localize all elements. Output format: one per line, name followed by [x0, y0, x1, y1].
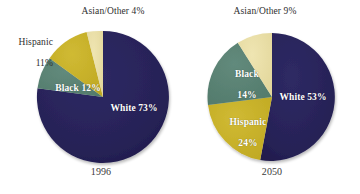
label-1996-asian-other: Asian/Other 4%	[82, 6, 145, 16]
label-2050-black-line2: 14%	[237, 90, 256, 100]
label-1996-hispanic-line1: Hispanic	[18, 37, 53, 47]
figure-canvas: Hispanic 11% Asian/Other 4% Black 12% Wh…	[0, 0, 360, 194]
year-label-1996: 1996	[91, 167, 111, 178]
year-label-2050: 2050	[262, 167, 282, 178]
label-2050-hispanic-line2: 24%	[238, 138, 257, 148]
label-2050-hispanic: Hispanic 24%	[220, 107, 267, 158]
label-1996-black: Black 12%	[55, 83, 101, 93]
label-2050-white: White 53%	[279, 92, 326, 102]
label-1996-hispanic-line2: 11%	[36, 58, 53, 68]
label-2050-black: Black 14%	[225, 59, 259, 110]
label-2050-hispanic-line1: Hispanic	[230, 117, 267, 127]
label-1996-white: White 73%	[110, 103, 157, 113]
label-2050-black-line1: Black	[235, 69, 259, 79]
label-1996-hispanic: Hispanic 11%	[9, 27, 53, 78]
label-2050-asian-other: Asian/Other 9%	[234, 6, 297, 16]
pie-1996-group	[37, 31, 169, 163]
